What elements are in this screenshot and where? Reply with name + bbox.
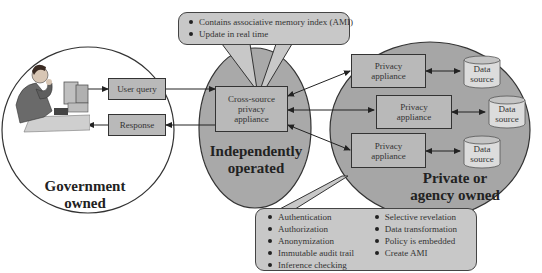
list-item: Immutable audit trail <box>266 247 373 259</box>
list-item: Anonymization <box>266 235 373 247</box>
privacy-appliance-box-3: Privacy appliance <box>351 133 426 168</box>
list-item: Contains associative memory index (AMI) <box>187 16 343 28</box>
list-item: Authorization <box>266 223 373 235</box>
bottom-callout: Authentication Authorization Anonymizati… <box>255 208 477 271</box>
list-item: Create AMI <box>373 247 470 259</box>
privacy-appliance-box-1: Privacy appliance <box>351 54 426 88</box>
list-item: Update in real time <box>187 28 343 40</box>
data-source-cylinder-1: Data source <box>462 55 502 89</box>
cross-source-privacy-appliance-box: Cross-source privacy appliance <box>215 86 288 132</box>
privacy-functions-list-right: Selective revelation Data transformation… <box>373 211 470 270</box>
person-at-computer-icon <box>10 55 90 135</box>
data-source-cylinder-3: Data source <box>462 135 502 169</box>
private-agency-owned-label: Private or agency owned <box>395 170 515 204</box>
user-query-label: User query <box>117 84 157 94</box>
data-source-cylinder-2: Data source <box>487 95 527 129</box>
list-item: Authentication <box>266 211 373 223</box>
user-query-box: User query <box>108 78 166 100</box>
response-label: Response <box>120 120 155 130</box>
top-callout: Contains associative memory index (AMI) … <box>178 12 350 45</box>
independently-operated-label: Independently operated <box>200 143 312 177</box>
list-item: Selective revelation <box>373 211 470 223</box>
response-box: Response <box>108 114 166 136</box>
government-owned-label: Government owned <box>20 178 150 212</box>
list-item: Policy is embedded <box>373 235 470 247</box>
privacy-appliance-box-2: Privacy appliance <box>376 95 452 129</box>
list-item: Inference checking <box>266 259 373 271</box>
ami-features-list: Contains associative memory index (AMI) … <box>187 16 343 40</box>
list-item: Data transformation <box>373 223 470 235</box>
privacy-functions-list-left: Authentication Authorization Anonymizati… <box>266 211 373 270</box>
